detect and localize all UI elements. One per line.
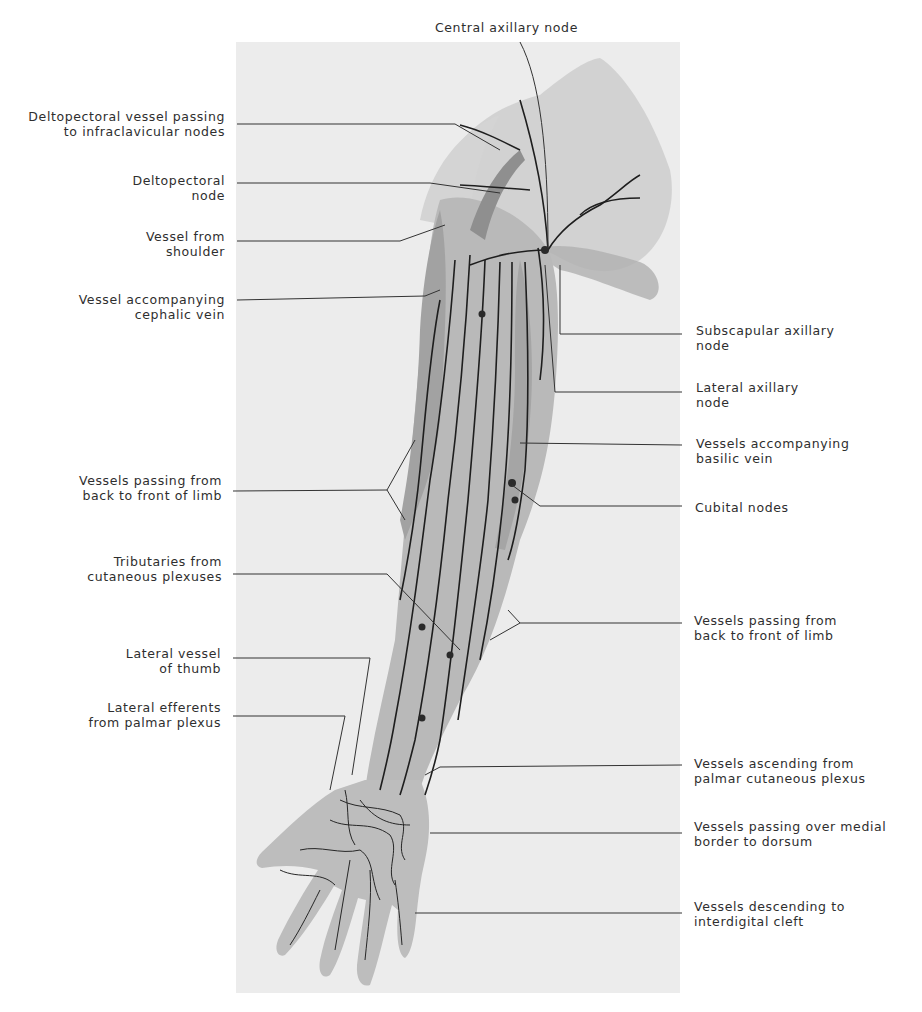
label-vessel-cephalic: Vessel accompanying cephalic vein	[79, 292, 225, 322]
label-lateral-axillary-node: Lateral axillary node	[696, 380, 799, 410]
label-lateral-vessel-thumb: Lateral vessel of thumb	[126, 646, 221, 676]
label-vessels-medial-border: Vessels passing over medial border to do…	[694, 819, 886, 849]
label-subscapular-axillary-node: Subscapular axillary node	[696, 323, 835, 353]
label-vessels-interdigital: Vessels descending to interdigital cleft	[694, 899, 845, 929]
label-vessels-back-front-upper: Vessels passing from back to front of li…	[79, 473, 222, 503]
label-vessels-ascending-palmar: Vessels ascending from palmar cutaneous …	[694, 756, 866, 786]
label-deltopectoral-vessel: Deltopectoral vessel passing to infracla…	[28, 109, 225, 139]
label-deltopectoral-node: Deltopectoral node	[133, 173, 225, 203]
label-central-axillary-node: Central axillary node	[435, 20, 578, 35]
label-cubital-nodes: Cubital nodes	[695, 500, 789, 515]
label-vessel-from-shoulder: Vessel from shoulder	[146, 229, 225, 259]
label-tributaries-cutaneous: Tributaries from cutaneous plexuses	[87, 554, 222, 584]
label-lateral-efferents-palmar: Lateral efferents from palmar plexus	[88, 700, 221, 730]
label-vessels-basilic: Vessels accompanying basilic vein	[696, 436, 849, 466]
cubital-node-marker	[508, 479, 516, 487]
label-vessels-back-front-lower: Vessels passing from back to front of li…	[694, 613, 837, 643]
hand	[257, 780, 429, 986]
